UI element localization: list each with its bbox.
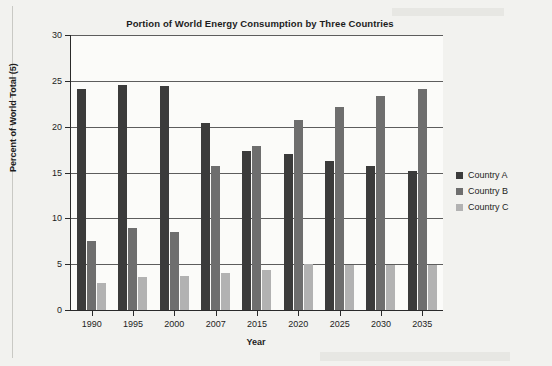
legend-swatch-icon	[456, 172, 463, 179]
y-tick-label: 0	[57, 305, 62, 315]
bar-group	[154, 35, 195, 310]
y-axis-title: Percent of World Total (5)	[8, 63, 18, 172]
y-tick-mark	[65, 310, 71, 311]
x-tick-mark	[257, 310, 258, 316]
bar-country-b-2000	[170, 232, 179, 310]
x-tick-label: 2030	[371, 319, 391, 329]
bar-country-a-1995	[118, 85, 127, 310]
y-tick-label: 20	[52, 122, 62, 132]
x-tick-mark	[216, 310, 217, 316]
bar-country-a-2000	[160, 86, 169, 310]
y-tick-label: 30	[52, 30, 62, 40]
bar-country-a-1990	[77, 89, 86, 310]
x-tick-label: 2020	[288, 319, 308, 329]
x-tick-mark	[422, 310, 423, 316]
bar-group	[360, 35, 401, 310]
bar-country-b-2025	[335, 107, 344, 311]
x-tick-mark	[381, 310, 382, 316]
bar-country-c-2030	[386, 265, 395, 310]
bar-country-b-1995	[128, 228, 137, 311]
legend-swatch-icon	[456, 188, 463, 195]
legend-entry-country-c[interactable]: Country C	[456, 199, 509, 215]
bar-country-b-2015	[252, 146, 261, 310]
bar-group	[278, 35, 319, 310]
y-tick-label: 10	[52, 213, 62, 223]
bar-country-b-2007	[211, 166, 220, 310]
chart-title: Portion of World Energy Consumption by T…	[60, 18, 460, 29]
bar-country-a-2015	[242, 151, 251, 310]
x-tick-mark	[174, 310, 175, 316]
bar-country-a-2025	[325, 161, 334, 310]
chart-legend: Country ACountry BCountry C	[456, 167, 509, 215]
bar-country-a-2030	[366, 166, 375, 310]
bar-group	[236, 35, 277, 310]
bar-country-b-2030	[376, 96, 385, 310]
bar-chart-figure: Portion of World Energy Consumption by T…	[0, 0, 552, 366]
x-tick-mark	[298, 310, 299, 316]
x-tick-label: 2007	[206, 319, 226, 329]
bar-country-c-2025	[345, 265, 354, 310]
bar-group	[402, 35, 443, 310]
x-tick-label: 2015	[247, 319, 267, 329]
bar-country-c-2015	[262, 270, 271, 310]
bar-country-c-1990	[97, 283, 106, 310]
x-tick-mark	[133, 310, 134, 316]
y-tick-label: 5	[57, 259, 62, 269]
bar-country-c-2035	[428, 265, 437, 310]
x-tick-label: 1995	[123, 319, 143, 329]
y-tick-label: 25	[52, 76, 62, 86]
x-tick-label: 2000	[164, 319, 184, 329]
x-tick-label: 2035	[412, 319, 432, 329]
bar-group	[319, 35, 360, 310]
bar-country-a-2020	[284, 154, 293, 310]
bar-country-b-1990	[87, 241, 96, 310]
bar-country-b-2035	[418, 89, 427, 310]
legend-label: Country A	[468, 170, 508, 180]
bar-group	[71, 35, 112, 310]
legend-entry-country-b[interactable]: Country B	[456, 183, 509, 199]
x-axis-title: Year	[70, 337, 442, 347]
x-tick-mark	[340, 310, 341, 316]
bar-country-c-1995	[138, 277, 147, 310]
bar-group	[195, 35, 236, 310]
legend-label: Country B	[468, 186, 508, 196]
legend-entry-country-a[interactable]: Country A	[456, 167, 509, 183]
x-tick-label: 2025	[330, 319, 350, 329]
bar-country-c-2000	[180, 276, 189, 310]
bar-group	[112, 35, 153, 310]
bar-country-a-2007	[201, 123, 210, 310]
bar-country-c-2020	[304, 264, 313, 310]
legend-swatch-icon	[456, 204, 463, 211]
bar-country-c-2007	[221, 273, 230, 310]
x-tick-mark	[92, 310, 93, 316]
bar-country-a-2035	[408, 171, 417, 310]
plot-area: 051015202530 199019952000200720152020202…	[70, 35, 443, 310]
x-tick-label: 1990	[82, 319, 102, 329]
legend-label: Country C	[468, 202, 509, 212]
bar-country-b-2020	[294, 120, 303, 310]
y-tick-label: 15	[52, 168, 62, 178]
